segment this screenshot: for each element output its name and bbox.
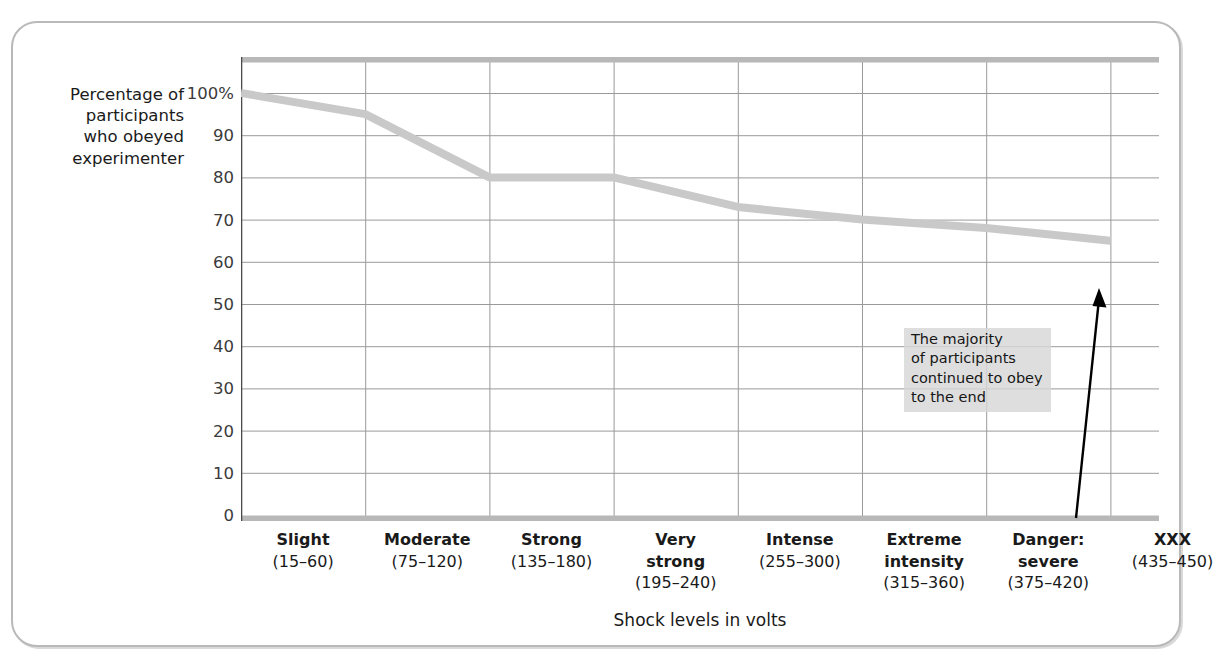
y-tick-label-100: 100% bbox=[160, 84, 234, 103]
y-axis-tick-labels: 100%9080706050403020100 bbox=[160, 57, 234, 521]
x-tick-category-range: (195–240) bbox=[601, 572, 751, 594]
plot-top-band bbox=[241, 57, 1159, 63]
y-tick-label-30: 30 bbox=[160, 379, 234, 398]
plot-bottom-band bbox=[241, 516, 1159, 522]
y-tick-label-80: 80 bbox=[160, 168, 234, 187]
arrow-head bbox=[1093, 288, 1107, 308]
y-tick-label-60: 60 bbox=[160, 252, 234, 271]
y-tick-label-20: 20 bbox=[160, 421, 234, 440]
y-tick-label-40: 40 bbox=[160, 337, 234, 356]
line-chart-svg bbox=[241, 57, 1159, 521]
x-tick-category-name: XXX bbox=[1098, 529, 1217, 551]
x-tick-category-range: (375–420) bbox=[973, 572, 1123, 594]
callout-arrow bbox=[1076, 288, 1107, 518]
obedience-data-line bbox=[241, 93, 1110, 241]
y-tick-label-50: 50 bbox=[160, 295, 234, 314]
x-axis-tick-labels: Slight(15–60)Moderate(75–120)Strong(135–… bbox=[241, 529, 1159, 605]
horizontal-gridlines bbox=[241, 94, 1159, 516]
x-tick-label-7: XXX(435–450) bbox=[1098, 529, 1217, 572]
y-tick-label-90: 90 bbox=[160, 126, 234, 145]
x-axis-title: Shock levels in volts bbox=[241, 610, 1159, 630]
vertical-gridlines bbox=[366, 57, 1111, 521]
arrow-shaft bbox=[1076, 299, 1099, 518]
x-tick-category-range: (435–450) bbox=[1098, 551, 1217, 573]
y-tick-label-10: 10 bbox=[160, 463, 234, 482]
y-tick-label-70: 70 bbox=[160, 210, 234, 229]
plot-area bbox=[241, 57, 1159, 521]
y-tick-label-0: 0 bbox=[160, 506, 234, 525]
